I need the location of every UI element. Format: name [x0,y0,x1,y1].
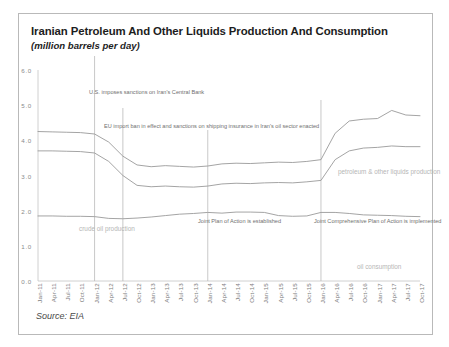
x-axis-tick-label: Jul-11 [64,283,71,301]
annotation-joint-plan-of-action: Joint Plan of Action is established [198,218,281,225]
x-axis-tick-label: Jan-14 [206,283,213,303]
page-title: Iranian Petroleum And Other Liquids Prod… [31,24,411,38]
x-axis-tick-label: Jul-15 [291,283,298,301]
y-axis-tick-label: 4.0 [21,137,32,144]
x-axis-ticks: Jan-11Apr-11Jul-11Oct-11Jan-12Apr-12Jul-… [38,283,420,317]
x-axis-tick-label: Oct-16 [361,283,368,303]
x-axis-tick-label: Apr-11 [50,283,57,302]
x-axis-tick-label: Jan-12 [93,283,100,303]
source-note: Source: EIA [36,311,84,321]
x-axis-tick-label: Apr-16 [333,283,340,303]
x-axis-tick-label: Jul-17 [404,283,411,301]
x-axis-tick-label: Jul-12 [121,283,128,301]
x-axis-tick-label: Apr-15 [277,283,284,303]
series-line [38,146,420,187]
annotation-eu-import-ban: EU import ban in effect and sanctions on… [104,123,319,130]
y-axis-tick-label: 6.0 [21,67,32,74]
x-axis-tick-label: Oct-13 [192,283,199,303]
x-axis-tick-label: Oct-11 [78,283,85,302]
plot-area: 0.01.02.03.04.05.06.0 petroleum & other … [38,70,420,281]
x-axis-tick-label: Oct-15 [305,283,312,303]
x-axis-tick-label: Jan-15 [262,283,269,303]
x-axis-tick-label: Oct-12 [135,283,142,303]
x-axis-tick-label: Jul-14 [234,283,241,301]
x-axis-tick-label: Jul-16 [347,283,354,301]
x-axis-tick-label: Oct-14 [248,283,255,303]
annotation-us-sanctions: U.S. imposes sanctions on Iran's Central… [89,89,204,96]
y-axis-tick-label: 3.0 [21,172,32,179]
x-axis-tick-label: Oct-17 [418,283,425,303]
x-axis-tick-label: Apr-14 [220,283,227,303]
chart-subtitle: (million barrels per day) [31,39,411,52]
x-axis-tick-label: Apr-17 [390,283,397,303]
series-label-production: petroleum & other liquids production [338,168,440,175]
x-axis-tick-label: Apr-13 [163,283,170,303]
x-axis-tick-label: Jan-16 [319,283,326,303]
series-label-consumption: oil consumption [357,263,401,270]
chart-figure: Iranian Petroleum And Other Liquids Prod… [0,0,449,347]
x-axis-tick-label: Apr-12 [107,283,114,303]
x-axis-tick-label: Jan-17 [376,283,383,303]
title-block: Iranian Petroleum And Other Liquids Prod… [31,24,411,52]
x-axis-tick-label: Jan-11 [36,283,43,303]
series-label-crude: crude oil production [79,224,135,234]
y-axis-tick-label: 1.0 [21,242,32,249]
y-axis-tick-label: 5.0 [21,102,32,109]
x-axis-tick-label: Jan-13 [149,283,156,303]
y-axis-tick-label: 0.0 [21,278,32,285]
plot-svg [38,70,420,281]
x-axis-tick-label: Jul-13 [177,283,184,301]
y-axis-tick-label: 2.0 [21,207,32,214]
series-line [38,110,420,167]
annotation-jcpoa: Joint Comprehensive Plan of Action is im… [314,218,441,225]
